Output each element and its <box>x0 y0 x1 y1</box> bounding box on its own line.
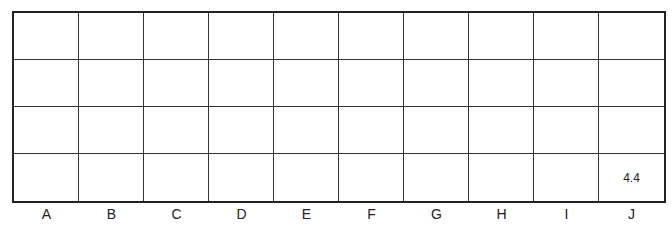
grid-cell <box>339 154 404 201</box>
grid-cell <box>14 13 79 60</box>
grid-cell <box>79 60 144 107</box>
grid-cell <box>14 154 79 201</box>
column-label: A <box>14 206 79 222</box>
grid-cell <box>274 154 339 201</box>
column-label: J <box>599 206 664 222</box>
grid-cell <box>404 154 469 201</box>
grid-cell <box>274 60 339 107</box>
column-label: C <box>144 206 209 222</box>
grid-cell <box>469 60 534 107</box>
grid-cell <box>339 60 404 107</box>
grid-cell <box>339 13 404 60</box>
grid-cell <box>599 107 664 154</box>
column-label: D <box>209 206 274 222</box>
grid-cell <box>144 60 209 107</box>
column-label: I <box>534 206 599 222</box>
grid-cell <box>404 107 469 154</box>
grid-cell <box>469 154 534 201</box>
grid-cell <box>339 107 404 154</box>
column-labels: ABCDEFGHIJ <box>14 206 664 222</box>
grid-cell <box>79 107 144 154</box>
grid-cell <box>534 13 599 60</box>
grid-cell <box>209 154 274 201</box>
grid-cell <box>144 13 209 60</box>
grid-cell <box>534 60 599 107</box>
grid-cell <box>534 107 599 154</box>
grid-cell: 4.4 <box>599 154 664 201</box>
grid-cell <box>274 13 339 60</box>
grid-cell <box>469 13 534 60</box>
column-label: E <box>274 206 339 222</box>
grid-cell <box>599 60 664 107</box>
grid-cell <box>144 154 209 201</box>
column-label: F <box>339 206 404 222</box>
grid-cell <box>404 60 469 107</box>
grid-table: 4.4 <box>12 11 666 203</box>
grid-cell <box>79 13 144 60</box>
column-label: H <box>469 206 534 222</box>
grid-cell <box>599 13 664 60</box>
grid-cell <box>144 107 209 154</box>
grid-cell <box>274 107 339 154</box>
grid-cell <box>209 60 274 107</box>
grid-cell <box>14 107 79 154</box>
grid-cell <box>209 107 274 154</box>
column-label: G <box>404 206 469 222</box>
grid-cell <box>534 154 599 201</box>
column-label: B <box>79 206 144 222</box>
grid-cell <box>14 60 79 107</box>
grid-cell <box>209 13 274 60</box>
grid-cell <box>404 13 469 60</box>
grid-cell <box>79 154 144 201</box>
grid-cell <box>469 107 534 154</box>
